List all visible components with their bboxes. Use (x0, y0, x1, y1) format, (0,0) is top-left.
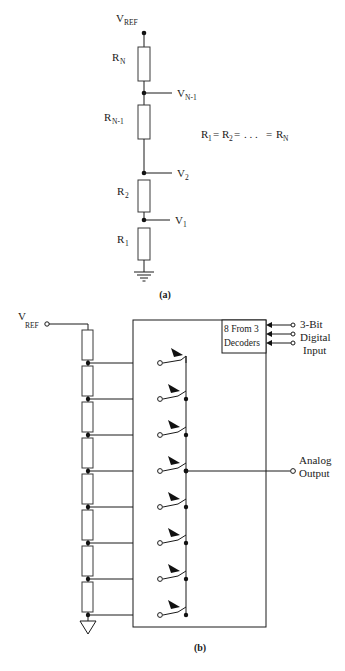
panel-a-resistor-r2-sublabel: 2 (125, 191, 129, 200)
panel-b-resistor (82, 546, 93, 576)
panel-a-tap-sublabel-vn1: N-1 (185, 93, 197, 102)
panel-b-resistor (82, 438, 93, 468)
switch-bus-node (184, 613, 188, 617)
panel-a-resistor-rn-sublabel: N (120, 57, 126, 66)
panel-b-resistor (82, 366, 93, 396)
equation-eq3: = (266, 128, 272, 140)
panel-b-analog-output-terminal[interactable] (291, 469, 296, 474)
panel-a-resistor-r2 (138, 180, 150, 212)
panel-b-digital-input-arrows (266, 322, 295, 346)
panel-a-resistor-rn1 (138, 105, 150, 139)
panel-a-tap-label-v1: V (175, 214, 183, 226)
panel-a-resistor-r2-label: R (117, 185, 125, 197)
digital-input-terminal[interactable] (291, 323, 295, 327)
panel-b-analog-output-line1: Analog (299, 454, 332, 466)
equation-ellipsis: . . . (244, 128, 258, 140)
panel-b-vref-sublabel: REF (25, 321, 39, 330)
panel-b-decoder-line1: 8 From 3 (224, 324, 259, 334)
equation-rn-sub: N (283, 134, 289, 143)
panel-a-equation: R 1 = R 2 = . . . = R N (201, 128, 289, 143)
panel-a: V REF R N V N-1 R N-1 V 2 R 2 (104, 12, 289, 301)
switch-bus-node (184, 397, 188, 401)
switch-bus-node (184, 505, 188, 509)
switch-terminal[interactable] (158, 541, 163, 546)
digital-input-terminal[interactable] (291, 332, 295, 336)
panel-a-resistor-rn1-sublabel: N-1 (112, 117, 124, 126)
dac-resistor-string-figure: V REF R N V N-1 R N-1 V 2 R 2 (0, 0, 345, 671)
equation-r1-sub: 1 (208, 134, 212, 143)
switch-terminal[interactable] (158, 361, 163, 366)
panel-a-resistor-r1 (138, 228, 150, 260)
panel-b-resistor (82, 474, 93, 504)
arrow-left-icon (266, 322, 272, 328)
panel-a-tap-label-vn1: V (177, 87, 185, 99)
panel-a-tap-sublabel-v2: 2 (185, 173, 189, 182)
switch-bus-node (184, 541, 188, 545)
panel-b-resistor (82, 402, 93, 432)
panel-b-vref-terminal[interactable] (45, 322, 49, 326)
panel-b-analog-output-line2: Output (299, 467, 330, 479)
panel-b-resistor (82, 330, 93, 360)
panel-a-ground-icon (134, 272, 154, 281)
switch-terminal[interactable] (158, 577, 163, 582)
panel-b-decoder-line2: Decoders (224, 338, 260, 348)
panel-a-caption: (a) (159, 289, 171, 301)
panel-b-digital-input-line2: Digital (300, 331, 331, 343)
panel-b-resistor (82, 510, 93, 540)
panel-b-resistor (82, 582, 93, 612)
switch-terminal[interactable] (158, 433, 163, 438)
digital-input-terminal[interactable] (291, 341, 295, 345)
panel-a-resistor-r1-label: R (117, 233, 125, 245)
panel-a-tap-label-v2: V (177, 167, 185, 179)
arrow-left-icon (266, 340, 272, 346)
switch-terminal[interactable] (158, 505, 163, 510)
switch-bus-node (184, 433, 188, 437)
switch-terminal[interactable] (158, 397, 163, 402)
equation-eq2: = (234, 128, 240, 140)
panel-a-tap-sublabel-v1: 1 (183, 220, 187, 229)
panel-b-digital-input-line3: Input (303, 344, 326, 356)
panel-a-resistor-r1-sublabel: 1 (125, 239, 129, 248)
panel-b-caption: (b) (194, 642, 206, 654)
panel-a-resistor-rn-label: R (112, 51, 120, 63)
switch-terminal[interactable] (158, 469, 163, 474)
panel-a-vref-label: V (116, 12, 124, 24)
panel-a-resistor-rn1-label: R (104, 111, 112, 123)
panel-a-resistor-rn (138, 47, 150, 81)
equation-r2-sub: 2 (229, 134, 233, 143)
switch-terminal[interactable] (158, 613, 163, 618)
switch-bus-node (184, 577, 188, 581)
panel-b-control-boundary (133, 320, 266, 627)
arrow-left-icon (266, 331, 272, 337)
equation-eq1: = (213, 128, 219, 140)
panel-a-vref-sublabel: REF (124, 18, 138, 27)
panel-b-digital-input-line1: 3-Bit (300, 318, 323, 330)
panel-b: V REF (18, 310, 332, 654)
panel-b-ground-icon (80, 621, 96, 634)
